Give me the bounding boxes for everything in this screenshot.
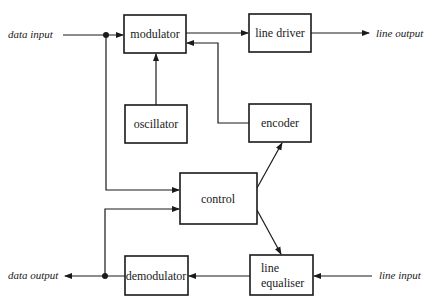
block-label-line1: line (261, 261, 279, 275)
wire-encoder-to-modulator (187, 43, 249, 123)
junction-dot-top (103, 32, 109, 38)
block-label: oscillator (134, 117, 179, 131)
block-label: modulator (130, 27, 179, 41)
connections (63, 32, 372, 279)
block-oscillator: oscillator (125, 105, 187, 143)
label-data-output: data output (8, 269, 59, 281)
block-label-line2: equaliser (261, 276, 304, 290)
block-label: demodulator (126, 269, 187, 283)
block-modulator: modulator (124, 15, 186, 53)
block-label: line driver (255, 26, 305, 40)
block-encoder: encoder (249, 104, 311, 142)
wire-control-to-line-equaliser (257, 210, 281, 254)
label-line-input: line input (379, 269, 422, 281)
label-line-output: line output (376, 27, 424, 39)
block-label: encoder (261, 116, 299, 130)
label-data-input: data input (8, 28, 54, 40)
block-line-equaliser: line equaliser (250, 255, 313, 295)
block-control: control (180, 173, 257, 224)
wire-control-to-encoder (257, 143, 282, 188)
block-line-driver: line driver (249, 14, 311, 52)
block-label: control (201, 192, 236, 206)
block-diagram: modulator line driver oscillator encoder… (0, 0, 429, 299)
junction-dot-bottom (102, 273, 108, 279)
block-demodulator: demodulator (125, 256, 188, 295)
